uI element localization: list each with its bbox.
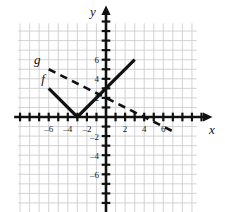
tick-marks — [20, 22, 201, 203]
x-axis-label: x — [208, 122, 215, 137]
y-axis-label: y — [88, 4, 96, 19]
x-tick-label: –4 — [62, 124, 73, 134]
y-axis-arrowhead — [101, 6, 110, 16]
curve-label-f: f — [41, 71, 47, 86]
curve-labels: fg — [34, 52, 47, 86]
coordinate-graph: –6–4–2246642–2–4–6xyfg — [0, 0, 225, 212]
y-tick-label: 6 — [95, 55, 100, 65]
x-tick-label: 2 — [123, 124, 128, 134]
y-tick-label: –4 — [89, 151, 100, 161]
y-tick-label: –6 — [89, 170, 100, 180]
x-tick-label: –6 — [43, 124, 54, 134]
y-tick-label: –2 — [89, 132, 99, 142]
y-tick-label: 4 — [95, 74, 100, 84]
x-axis-arrowhead — [203, 112, 213, 121]
x-tick-label: 4 — [142, 124, 147, 134]
curve-label-g: g — [34, 52, 41, 67]
graph-canvas: –6–4–2246642–2–4–6xyfg — [0, 0, 225, 212]
